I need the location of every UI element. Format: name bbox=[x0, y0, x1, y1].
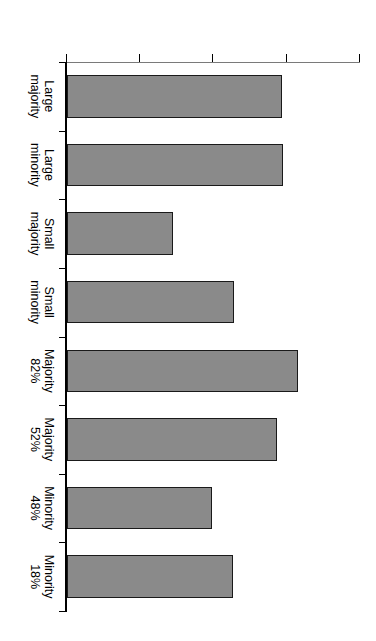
bar bbox=[67, 212, 173, 255]
bar bbox=[67, 487, 212, 530]
bar bbox=[67, 281, 234, 324]
category-axis-tick bbox=[59, 199, 67, 200]
category-axis-label: Minority 48% bbox=[28, 474, 56, 543]
bar bbox=[67, 555, 233, 598]
category-axis-label: Majority 82% bbox=[28, 337, 56, 406]
category-axis-tick bbox=[59, 405, 67, 406]
category-axis-label: Majority 52% bbox=[28, 405, 56, 474]
category-axis-tick bbox=[59, 62, 67, 63]
category-axis-label: Small majority bbox=[28, 199, 56, 268]
bar bbox=[67, 418, 277, 461]
value-axis-line bbox=[67, 62, 360, 63]
value-axis-tick bbox=[286, 54, 287, 62]
value-axis-tick bbox=[213, 54, 214, 62]
category-axis-label: Large minority bbox=[28, 131, 56, 200]
category-axis-label: Small minority bbox=[28, 268, 56, 337]
value-axis-tick bbox=[139, 54, 140, 62]
bar-chart-figure: 23456 Large majorityLarge minoritySmall … bbox=[0, 0, 376, 641]
category-axis-label: Large majority bbox=[28, 62, 56, 131]
category-axis-tick bbox=[59, 131, 67, 132]
category-axis-tick bbox=[59, 474, 67, 475]
bar bbox=[67, 144, 283, 187]
category-axis-tick bbox=[59, 337, 67, 338]
bar bbox=[67, 350, 298, 393]
category-axis-tick bbox=[59, 268, 67, 269]
value-axis-tick bbox=[66, 54, 67, 62]
category-axis-tick bbox=[59, 542, 67, 543]
figure-rotator: 23456 Large majorityLarge minoritySmall … bbox=[0, 0, 376, 641]
category-axis-tick bbox=[59, 611, 67, 612]
category-axis-label: Minority 18% bbox=[28, 542, 56, 611]
bar bbox=[67, 75, 282, 118]
value-axis-tick bbox=[359, 54, 360, 62]
